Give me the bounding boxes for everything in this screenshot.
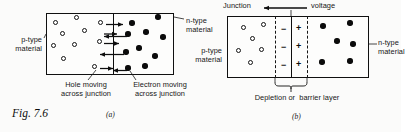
hole-carrier-marker: [61, 56, 66, 61]
electron-carrier-marker: [136, 45, 141, 50]
depletion-positive-charge: +: [296, 42, 301, 51]
hole-carrier-marker: [250, 36, 255, 41]
electron-carrier-marker: [320, 23, 325, 28]
panel-b-sublabel: (b): [292, 112, 301, 121]
depletion-negative-charge: −: [281, 43, 286, 52]
electron-carrier-marker: [143, 29, 148, 34]
hole-carrier-marker: [72, 42, 77, 47]
panel-b-left-label: p-type material: [170, 47, 222, 64]
hole-carrier-marker: [74, 15, 79, 20]
hole-carrier-marker: [248, 60, 253, 65]
depletion-negative-charge: −: [281, 61, 286, 70]
panel-a-left-label: p-type material: [0, 36, 42, 53]
panel-b-depletion-left-edge: [275, 16, 276, 78]
electron-carrier-marker: [160, 34, 165, 39]
figure-number-label: Fig. 7.6: [12, 107, 48, 119]
hole-carrier-marker: [51, 43, 56, 48]
panel-b-right-label: n-type material: [378, 39, 409, 56]
hole-carrier-marker: [97, 39, 102, 44]
panel-b-junction-line: [291, 16, 292, 78]
electron-carrier-marker: [319, 59, 324, 64]
electron-carrier-marker: [123, 49, 128, 54]
hole-carrier-marker: [53, 20, 58, 25]
panel-b-junction-top-label: Junction: [223, 2, 265, 11]
hole-carrier-marker: [261, 22, 266, 27]
panel-b-voltage-top-label: voltage: [311, 2, 359, 11]
electron-carrier-marker: [155, 14, 160, 19]
panel-a-right-label-leader: [174, 17, 184, 19]
hole-carrier-marker: [241, 25, 246, 30]
hole-carrier-marker: [236, 48, 241, 53]
panel-b-caption: Depletion or barrier layer: [232, 94, 362, 103]
n-type-leader-line: [174, 17, 184, 19]
hole-carrier-marker: [82, 28, 87, 33]
electron-carrier-marker: [347, 20, 352, 25]
depletion-brace: [275, 82, 307, 89]
hole-carrier-marker: [60, 31, 65, 36]
electron-carrier-marker: [347, 58, 352, 63]
panel-a-diagram-box: [46, 13, 174, 75]
panel-a-junction-line: [113, 13, 114, 75]
electron-carrier-marker: [125, 65, 130, 70]
panel-a-caption-right: Electron moving across junction: [122, 81, 198, 98]
panel-a-sublabel: (a): [106, 110, 115, 119]
depletion-edge-tick-group: [275, 78, 307, 82]
electron-carrier-marker: [142, 63, 147, 68]
depletion-positive-charge: +: [296, 60, 301, 69]
depletion-positive-charge: +: [296, 24, 301, 33]
electron-carrier-marker: [129, 20, 134, 25]
electron-carrier-marker: [334, 38, 339, 43]
panel-a-caption-left: Hole moving across junction: [50, 81, 122, 98]
electron-carrier-marker: [125, 31, 130, 36]
hole-carrier-marker: [98, 20, 103, 25]
hole-carrier-marker: [92, 64, 97, 69]
panel-b-depletion-right-edge: [307, 16, 308, 78]
hole-carrier-marker: [259, 47, 264, 52]
electron-carrier-marker: [152, 53, 157, 58]
depletion-negative-charge: −: [281, 25, 286, 34]
electron-carrier-marker: [350, 41, 355, 46]
